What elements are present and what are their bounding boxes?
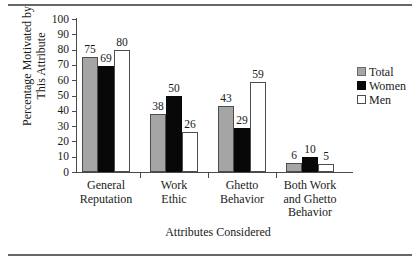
x-tick: [276, 173, 277, 178]
bar-value-label: 80: [107, 37, 137, 49]
bar-men-0: [114, 50, 130, 172]
bar-value-label: 5: [311, 151, 341, 163]
legend: TotalWomenMen: [357, 66, 406, 108]
bar-women-1: [166, 96, 182, 173]
legend-label: Total: [369, 66, 394, 78]
y-tick-label: 40: [58, 105, 70, 117]
legend-item-men[interactable]: Men: [357, 94, 406, 106]
legend-item-women[interactable]: Women: [357, 80, 406, 92]
bar-value-label: 50: [159, 83, 189, 95]
bar-women-2: [234, 128, 250, 172]
y-tick-label: 70: [58, 59, 70, 71]
y-tick-label: 100: [52, 14, 69, 26]
x-axis-line: [76, 172, 353, 173]
y-tick-label: 90: [58, 29, 70, 41]
y-tick-label: 60: [58, 75, 70, 87]
bar-men-2: [250, 82, 266, 172]
legend-swatch-icon: [357, 67, 366, 76]
bar-value-label: 43: [211, 93, 241, 105]
bar-total-0: [82, 57, 98, 172]
legend-label: Women: [369, 80, 406, 92]
bar-total-1: [150, 114, 166, 172]
legend-item-total[interactable]: Total: [357, 66, 406, 78]
y-tick-label: 10: [58, 151, 70, 163]
legend-swatch-icon: [357, 95, 366, 104]
plot-area: 7569803850264329596105: [77, 19, 352, 172]
bar-men-1: [182, 132, 198, 172]
y-axis-title: Percentage Motivated by This Attribute: [20, 0, 48, 141]
y-tick-label: 30: [58, 121, 70, 133]
x-tick: [140, 173, 141, 178]
x-category-label-3: Both Work and Ghetto Behavior: [260, 179, 360, 220]
bar-total-3: [286, 163, 302, 172]
figure: 0102030405060708090100 Percentage Motiva…: [0, 0, 419, 261]
bar-value-label: 59: [243, 69, 273, 81]
legend-label: Men: [369, 94, 391, 106]
bar-women-0: [98, 66, 114, 172]
y-tick-label: 20: [58, 136, 70, 148]
y-tick-label: 0: [63, 167, 69, 179]
x-axis-title: Attributes Considered: [108, 225, 328, 240]
y-tick-label: 50: [58, 90, 70, 102]
legend-swatch-icon: [357, 81, 366, 90]
bar-men-3: [318, 164, 334, 172]
bar-value-label: 26: [175, 119, 205, 131]
bottom-rule: [8, 254, 412, 256]
y-tick-label: 80: [58, 44, 70, 56]
x-tick: [208, 173, 209, 178]
